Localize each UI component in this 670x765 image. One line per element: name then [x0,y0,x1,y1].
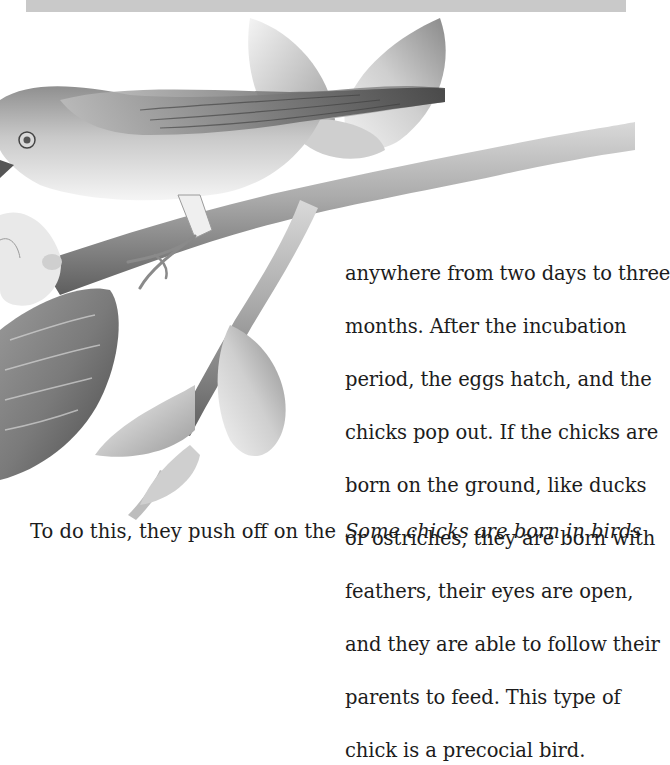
body-line: feathers, their eyes are open, [345,579,635,606]
body-line: months. After the incubation [345,314,635,341]
body-paragraph: anywhere from two days to three months. … [345,234,635,765]
body-line: chick is a precocial bird. [345,738,635,765]
body-line: and they are able to follow their [345,632,635,659]
body-line: anywhere from two days to three [345,261,635,288]
body-line: chicks pop out. If the chicks are [345,420,635,447]
body-line: parents to feed. This type of [345,685,635,712]
body-line: period, the eggs hatch, and the [345,367,635,394]
bottom-right-partial-text: Some chicks are born in birds [345,519,642,545]
body-line: born on the ground, like ducks [345,473,635,500]
bottom-left-partial-text: To do this, they push off on the [30,519,336,545]
